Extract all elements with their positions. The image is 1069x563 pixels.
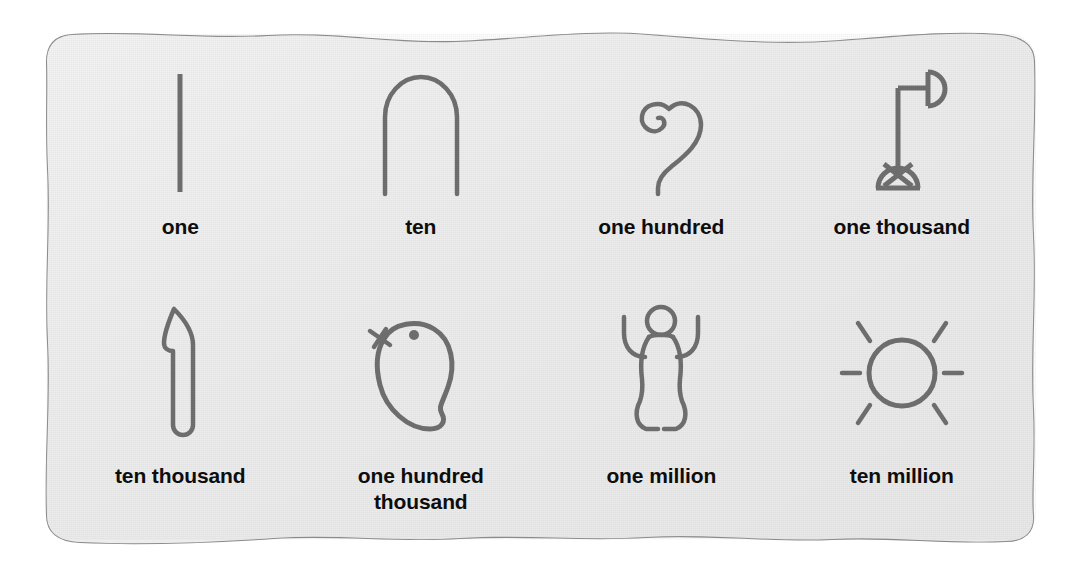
glyph-cell-ten-million[interactable]: ten million xyxy=(782,283,1023,518)
glyph-label-one: one xyxy=(162,214,199,240)
glyph-cell-ten[interactable]: ten xyxy=(301,48,542,283)
lotus-flower-icon xyxy=(842,48,962,198)
glyph-label-one-million: one million xyxy=(606,463,716,489)
glyph-label-ten-million: ten million xyxy=(850,463,954,489)
glyph-label-ten-thousand: ten thousand xyxy=(115,463,246,489)
glyph-label-one-hundred-thousand: one hundred thousand xyxy=(358,463,484,515)
glyph-cell-one-thousand[interactable]: one thousand xyxy=(782,48,1023,283)
glyph-cell-ten-thousand[interactable]: ten thousand xyxy=(60,283,301,518)
glyph-cell-one[interactable]: one xyxy=(60,48,301,283)
coiled-rope-icon xyxy=(606,48,716,198)
glyph-label-one-hundred: one hundred xyxy=(598,214,724,240)
single-stroke-icon xyxy=(150,48,210,198)
diagram-stage: one ten one hundred xyxy=(0,0,1069,563)
glyph-cell-one-hundred[interactable]: one hundred xyxy=(541,48,782,283)
glyph-label-ten: ten xyxy=(405,214,436,240)
glyph-grid: one ten one hundred xyxy=(60,48,1022,518)
tadpole-icon xyxy=(346,283,496,441)
glyph-label-one-thousand: one thousand xyxy=(834,214,970,240)
sun-icon xyxy=(832,283,972,441)
heh-god-figure-icon xyxy=(596,283,726,441)
glyph-cell-one-million[interactable]: one million xyxy=(541,283,782,518)
glyph-cell-one-hundred-thousand[interactable]: one hundred thousand xyxy=(301,283,542,518)
heel-bone-arch-icon xyxy=(366,48,476,198)
pointing-finger-icon xyxy=(140,283,220,441)
